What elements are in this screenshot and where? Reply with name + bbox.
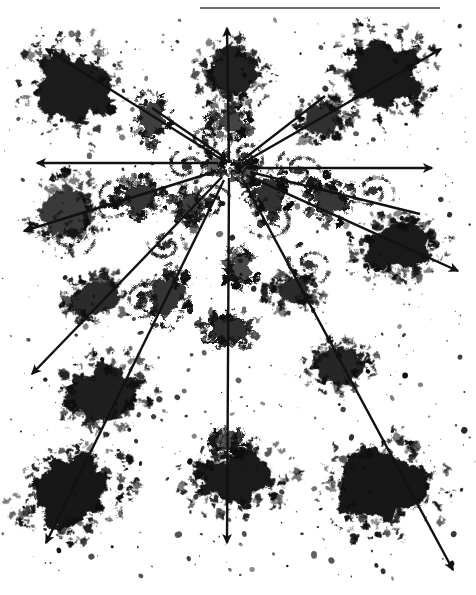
background-speck [372,288,374,290]
background-speck [171,49,174,52]
background-speck [310,485,317,492]
background-speck [178,256,179,257]
background-speck [156,384,157,385]
background-speck [212,540,215,543]
background-speck [253,410,256,413]
background-speck [435,403,437,404]
background-speck [370,514,371,515]
background-speck [160,40,165,44]
background-speck [295,375,296,376]
background-speck [205,256,208,259]
background-speck [269,239,270,240]
background-speck [346,231,352,237]
background-speck [44,562,46,564]
background-speck [226,562,227,563]
background-speck [86,357,88,359]
background-speck [430,319,431,320]
background-speck [294,31,296,33]
background-speck [134,165,137,168]
background-speck [168,146,171,149]
background-speck [337,402,341,406]
background-speck [72,357,73,358]
background-speck [2,278,4,279]
background-speck [212,63,213,65]
background-speck [156,178,157,179]
background-speck [436,147,440,150]
background-speck [272,552,276,556]
background-speck [43,528,47,532]
background-speck [174,453,176,455]
background-speck [49,385,50,387]
background-speck [9,129,11,131]
background-speck [402,372,408,378]
background-speck [414,283,416,284]
background-speck [375,336,376,337]
background-speck [195,96,196,97]
background-speck [441,557,444,560]
background-speck [234,376,242,384]
background-speck [347,159,348,160]
background-speck [407,146,409,148]
background-speck [186,367,192,372]
background-speck [18,220,20,222]
source-clump [137,263,194,329]
background-speck [196,277,197,278]
background-speck [121,167,125,172]
background-speck [227,567,232,572]
background-speck [423,452,425,454]
background-speck [40,178,43,181]
background-speck [189,115,194,120]
background-speck [396,371,397,372]
background-speck [408,303,410,305]
background-speck [451,501,452,502]
figure-root: Radial vector field over clumped source … [0,0,476,595]
background-speck [259,401,265,406]
background-speck [68,30,75,38]
background-speck [445,185,447,187]
background-speck [134,48,136,50]
background-speck [428,415,431,417]
background-speck [55,402,57,404]
background-speck [272,309,273,310]
background-speck [206,278,207,279]
background-speck [9,334,12,337]
background-speck [367,271,369,273]
background-speck [30,524,35,528]
background-speck [15,65,16,67]
background-speck [325,323,326,325]
background-speck [132,422,133,423]
source-clump [167,184,212,232]
background-speck [166,411,168,413]
background-speck [210,423,212,425]
background-speck [474,461,475,462]
background-speck [181,234,182,235]
background-speck [186,556,192,562]
background-speck [62,274,69,280]
background-speck [430,460,432,462]
background-speck [241,531,247,538]
background-speck [150,413,157,420]
background-speck [60,256,63,259]
background-speck [459,487,464,492]
background-speck [52,123,58,126]
background-speck [249,224,251,226]
background-speck [210,286,211,287]
background-speck [139,532,141,534]
background-speck [408,288,412,292]
background-speck [285,564,289,567]
background-speck [384,139,385,141]
background-speck [426,263,429,266]
background-speck [397,344,400,348]
background-speck [391,284,392,286]
background-speck [191,433,198,440]
background-speck [278,403,280,405]
background-speck [133,86,137,89]
background-speck [316,526,319,529]
background-speck [460,426,468,435]
background-speck [322,538,323,540]
background-speck [380,568,386,575]
background-speck [317,23,319,25]
background-speck [327,556,335,564]
background-speck [389,394,395,401]
background-speck [459,314,461,316]
